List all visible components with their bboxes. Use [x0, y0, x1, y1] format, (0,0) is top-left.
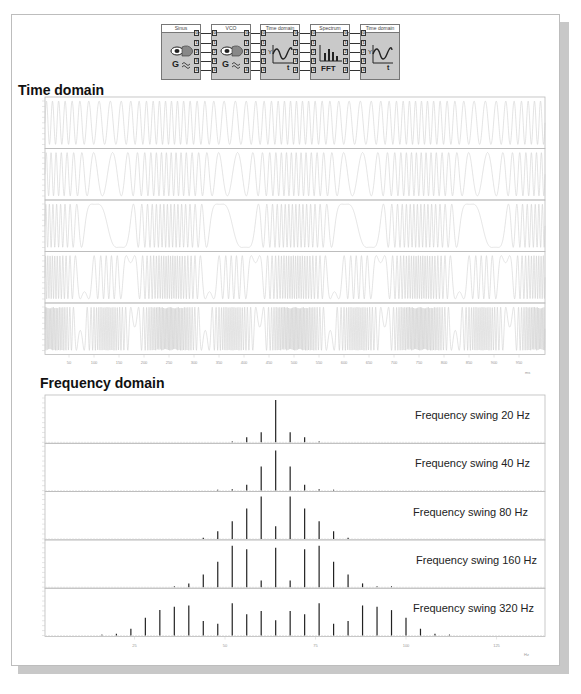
frequency-tick-label: 75: [313, 643, 317, 648]
time-tick-label: 600: [341, 360, 348, 365]
spectral-dot: [217, 490, 218, 491]
time-tick-label: 700: [391, 360, 398, 365]
time-tick-label: 550: [316, 360, 323, 365]
time-tick-label: 150: [116, 360, 123, 365]
plots-canvas: [0, 0, 581, 694]
frequency-tick-label: 100: [403, 643, 410, 648]
time-tick-label: 750: [416, 360, 423, 365]
time-tick-label: 50: [67, 360, 71, 365]
time-tick-label: 450: [266, 360, 273, 365]
time-axis-unit: ms: [525, 370, 530, 375]
time-tick-label: 850: [466, 360, 473, 365]
spectral-dot: [377, 586, 378, 587]
time-tick-label: 400: [241, 360, 248, 365]
swing-label-0: Frequency swing 20 Hz: [415, 409, 530, 421]
waveform-2: [45, 204, 545, 247]
time-tick-label: 300: [191, 360, 198, 365]
spectral-dot: [333, 490, 334, 491]
swing-label-4: Frequency swing 320 Hz: [413, 602, 534, 614]
spectral-dot: [232, 441, 233, 442]
time-tick-label: 800: [441, 360, 448, 365]
time-tick-label: 950: [516, 360, 523, 365]
spectral-dot: [319, 441, 320, 442]
time-tick-label: 900: [491, 360, 498, 365]
waveform-1: [45, 153, 545, 196]
time-tick-label: 350: [216, 360, 223, 365]
spectral-dot: [174, 586, 175, 587]
frequency-tick-label: 125: [493, 643, 500, 648]
frequency-tick-label: 25: [132, 643, 136, 648]
spectral-dot: [391, 586, 392, 587]
time-tick-label: 250: [166, 360, 173, 365]
time-tick-label: 500: [291, 360, 298, 365]
spectral-dot: [449, 635, 450, 636]
swing-label-2: Frequency swing 80 Hz: [413, 506, 528, 518]
swing-label-1: Frequency swing 40 Hz: [415, 457, 530, 469]
time-tick-label: 650: [366, 360, 373, 365]
waveform-3: [45, 256, 545, 299]
waveform-4: [45, 307, 545, 350]
frequency-tick-label: 50: [223, 643, 227, 648]
time-tick-label: 100: [91, 360, 98, 365]
frequency-axis-unit: Hz: [524, 652, 529, 657]
time-tick-label: 200: [141, 360, 148, 365]
waveform-0: [45, 101, 545, 144]
swing-label-3: Frequency swing 160 Hz: [416, 554, 537, 566]
spectral-dot: [101, 635, 102, 636]
